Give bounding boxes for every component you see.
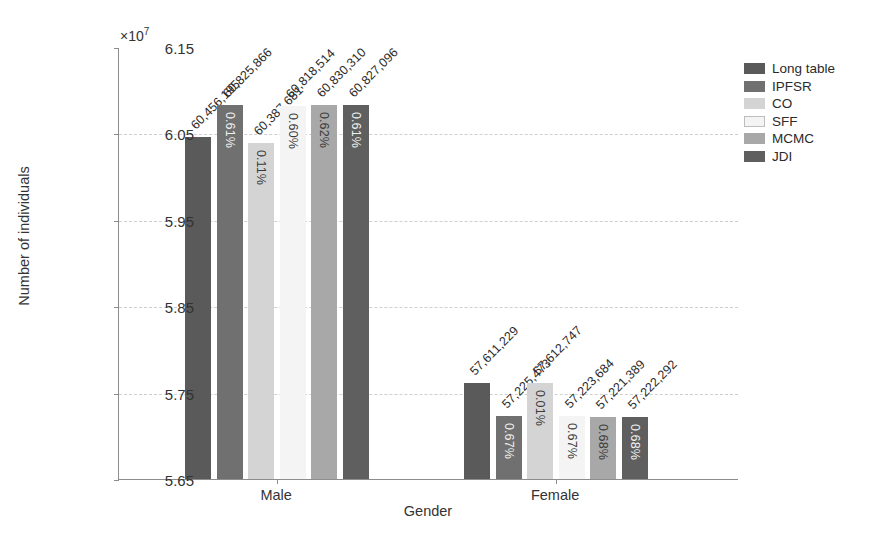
legend-swatch-icon [744, 63, 765, 74]
bar-male-jdi: 60,827,0960.61% [343, 105, 369, 479]
bar-female-sff: 57,223,6840.67% [559, 416, 585, 479]
x-tick-mark [277, 479, 278, 484]
bar-male-ipfsr: 60,825,8660.61% [217, 105, 243, 479]
bar-female-ipfsr: 57,225,4730.67% [496, 416, 522, 479]
y-axis-label: Number of individuals [16, 26, 32, 446]
bar-percent-label: 0.61% [349, 112, 363, 148]
legend-label: SFF [772, 115, 798, 129]
bar-percent-label: 0.67% [565, 423, 579, 459]
bar-male-co: 60,387,6810.11% [248, 143, 274, 479]
y-tick-mark [114, 480, 119, 481]
plot-area: 60,456,19560,825,8660.61%60,387,6810.11%… [118, 48, 738, 480]
bar-percent-label: 0.68% [596, 424, 610, 460]
legend-item-sff[interactable]: SFF [744, 113, 868, 131]
y-tick-mark [114, 134, 119, 135]
legend-label: JDI [772, 150, 792, 164]
gridline [119, 134, 738, 135]
legend-item-mcmc[interactable]: MCMC [744, 130, 868, 148]
bar-percent-label: 0.01% [533, 390, 547, 426]
legend-label: CO [772, 97, 792, 111]
y-tick-label: 5.75 [134, 385, 194, 402]
bar-female-co: 57,612,7470.01% [527, 383, 553, 479]
y-tick-mark [114, 221, 119, 222]
legend-item-long-table[interactable]: Long table [744, 60, 868, 78]
bar-percent-label: 0.60% [286, 113, 300, 149]
bar-percent-label: 0.61% [223, 112, 237, 148]
bar-female-jdi: 57,222,2920.68% [622, 417, 648, 479]
x-tick-label-male: Male [260, 487, 291, 503]
x-tick-mark [556, 479, 557, 484]
gridline [119, 307, 738, 308]
bar-percent-label: 0.67% [502, 423, 516, 459]
bar-percent-label: 0.62% [317, 112, 331, 148]
x-tick-label-female: Female [531, 487, 579, 503]
y-tick-mark [114, 48, 119, 49]
legend-swatch-icon [744, 133, 765, 144]
bar-female-mcmc: 57,221,3890.68% [590, 417, 616, 479]
bar-percent-label: 0.11% [254, 150, 268, 185]
bar-percent-label: 0.68% [628, 424, 642, 460]
bar-male-sff: 60,818,5140.60% [280, 106, 306, 479]
y-axis-exponent-power: 7 [144, 26, 150, 37]
legend-swatch-icon [744, 98, 765, 109]
bar-female-long-table: 57,611,229 [464, 383, 490, 479]
legend-swatch-icon [744, 81, 765, 92]
gridline [119, 221, 738, 222]
y-tick-label: 6.05 [134, 126, 194, 143]
y-tick-label: 5.85 [134, 299, 194, 316]
legend-label: IPFSR [772, 80, 812, 94]
legend-swatch-icon [744, 116, 765, 127]
legend-label: MCMC [772, 132, 814, 146]
x-axis-label: Gender [118, 503, 738, 519]
legend-swatch-icon [744, 151, 765, 162]
bar-value-label: 57,611,229 [467, 324, 521, 378]
legend-label: Long table [772, 62, 835, 76]
y-tick-mark [114, 307, 119, 308]
legend: Long tableIPFSRCOSFFMCMCJDI [744, 60, 868, 165]
y-tick-label: 6.15 [134, 40, 194, 57]
legend-item-jdi[interactable]: JDI [744, 148, 868, 166]
legend-item-ipfsr[interactable]: IPFSR [744, 78, 868, 96]
bar-value-label: 60,825,866 [220, 45, 275, 100]
bar-value-label: 57,612,747 [530, 323, 585, 378]
bar-male-mcmc: 60,830,3100.62% [311, 105, 337, 479]
y-tick-label: 5.65 [134, 472, 194, 489]
legend-item-co[interactable]: CO [744, 95, 868, 113]
y-tick-mark [114, 394, 119, 395]
y-tick-label: 5.95 [134, 212, 194, 229]
bar-chart: ×107 Number of individuals Gender 60,456… [0, 0, 876, 542]
